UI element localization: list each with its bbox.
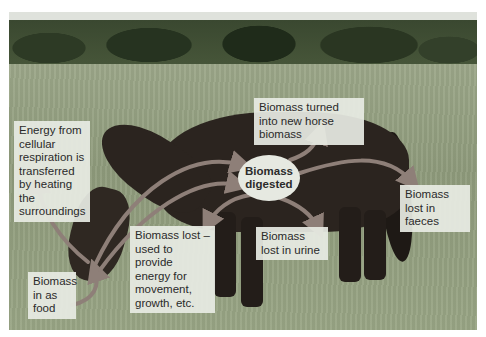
- label-food: Biomass in as food: [28, 272, 76, 319]
- biomass-digested-node: Biomass digested: [238, 155, 300, 201]
- label-movement: Biomass lost – used to provide energy fo…: [130, 226, 215, 313]
- label-urine: Biomass lost in urine: [256, 227, 328, 260]
- label-horse-biomass: Biomass turned into new horse biomass: [254, 98, 364, 145]
- label-faeces: Biomass lost in faeces: [400, 185, 470, 232]
- label-energy-respiration: Energy from cellular respiration is tran…: [14, 121, 90, 222]
